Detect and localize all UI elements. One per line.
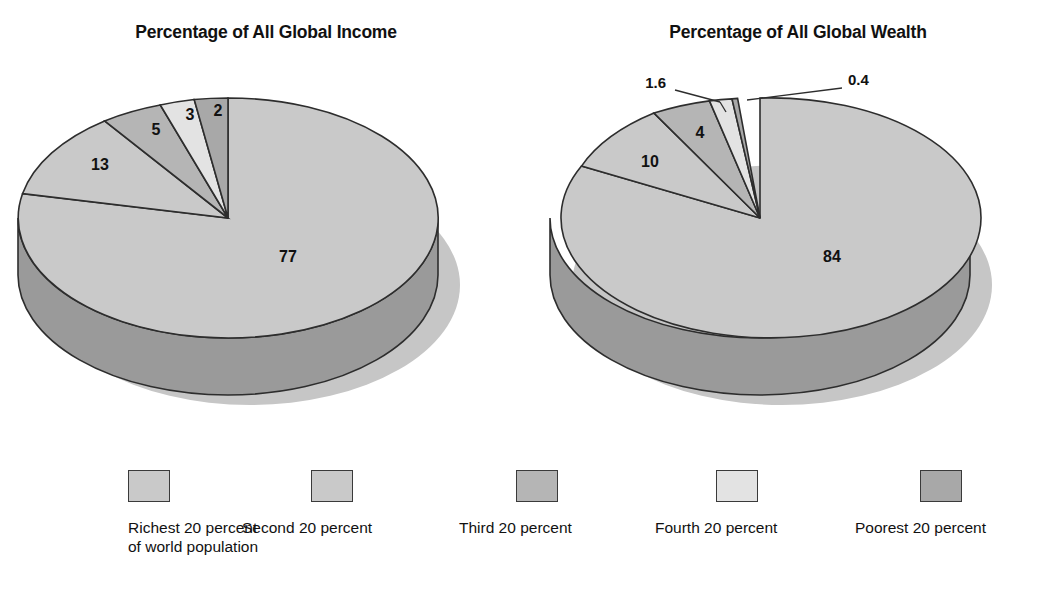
legend-label-second-line1: Second 20 percent	[242, 519, 372, 536]
pie-label-income-fourth: 3	[186, 106, 195, 123]
chart-title-income: Percentage of All Global Income	[0, 22, 532, 43]
legend-label-fourth-line1: Fourth 20 percent	[655, 519, 777, 536]
pie-label-income-richest: 77	[279, 248, 297, 265]
legend-label-third-line1: Third 20 percent	[459, 519, 572, 536]
callout-line-fourth	[675, 90, 720, 102]
charts-container: Percentage of All Global Income	[0, 0, 1064, 470]
legend-item-richest[interactable]: Richest 20 percent of world population	[128, 470, 170, 502]
chart-legend: Richest 20 percent of world population S…	[0, 470, 1064, 607]
pie-label-income-third: 5	[152, 121, 161, 138]
legend-label-richest-line1: Richest 20 percent	[128, 519, 257, 536]
legend-label-richest-line2: of world population	[128, 537, 258, 556]
pie-label-wealth-second: 10	[641, 153, 659, 170]
legend-label-fourth: Fourth 20 percent	[655, 518, 777, 537]
legend-label-richest: Richest 20 percent of world population	[128, 518, 258, 556]
legend-label-poorest-line1: Poorest 20 percent	[855, 519, 986, 536]
legend-label-third: Third 20 percent	[459, 518, 572, 537]
pie-label-wealth-poorest: 0.4	[848, 71, 870, 88]
legend-item-poorest[interactable]: Poorest 20 percent	[920, 470, 962, 502]
chart-panel-income: Percentage of All Global Income	[0, 0, 532, 470]
pie-label-wealth-third: 4	[696, 124, 705, 141]
legend-swatch-fourth	[716, 470, 758, 502]
legend-swatch-third	[516, 470, 558, 502]
pie-label-wealth-richest: 84	[823, 248, 841, 265]
legend-swatch-richest	[128, 470, 170, 502]
legend-item-second[interactable]: Second 20 percent	[311, 470, 353, 502]
pie-chart-income: 77 13 5 3 2	[0, 50, 532, 460]
pie-label-wealth-fourth: 1.6	[645, 74, 666, 91]
pie-chart-wealth: 84 10 4 1.6 0.4	[532, 50, 1064, 460]
legend-swatch-poorest	[920, 470, 962, 502]
legend-label-poorest: Poorest 20 percent	[855, 518, 986, 537]
chart-panel-wealth: Percentage of All Global Wealth 84 10 4	[532, 0, 1064, 470]
legend-label-second: Second 20 percent	[242, 518, 372, 537]
legend-item-fourth[interactable]: Fourth 20 percent	[716, 470, 758, 502]
legend-swatch-second	[311, 470, 353, 502]
pie-label-income-poorest: 2	[214, 102, 223, 119]
pie-label-income-second: 13	[91, 156, 109, 173]
legend-item-third[interactable]: Third 20 percent	[516, 470, 558, 502]
chart-title-wealth: Percentage of All Global Wealth	[532, 22, 1064, 43]
